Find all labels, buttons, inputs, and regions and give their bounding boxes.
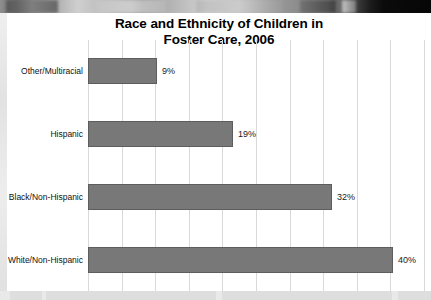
background-photo-strip <box>0 0 431 13</box>
bar[interactable] <box>88 58 157 84</box>
category-label: Hispanic <box>50 129 83 139</box>
photo-smear <box>6 0 58 13</box>
category-label: Other/Multiracial <box>21 66 83 76</box>
chart-title-line-1: Race and Ethnicity of Children in <box>115 16 323 31</box>
bar-value-label: 9% <box>162 66 175 76</box>
category-label: White/Non-Hispanic <box>8 255 83 265</box>
bar-value-label: 40% <box>398 255 416 265</box>
bar[interactable] <box>88 184 332 210</box>
category-label-slot: Other/Multiracial <box>7 58 83 84</box>
bottom-border-strip <box>0 291 431 300</box>
bottom-segment <box>10 291 42 300</box>
bar-row: 19% <box>88 121 424 147</box>
left-border-strip <box>0 13 7 300</box>
bar-row: 9% <box>88 58 424 84</box>
bar-row: 40% <box>88 247 424 273</box>
screenshot-root: Race and Ethnicity of Children in Foster… <box>0 0 431 300</box>
gridline <box>424 40 425 291</box>
bar-value-label: 32% <box>337 192 355 202</box>
bar[interactable] <box>88 121 233 147</box>
photo-smear <box>342 0 356 13</box>
bottom-segment <box>398 291 431 300</box>
bar-value-label: 19% <box>238 129 256 139</box>
category-label-slot: Hispanic <box>7 121 83 147</box>
bottom-segment <box>222 291 392 300</box>
bar-row: 32% <box>88 184 424 210</box>
category-label: Black/Non-Hispanic <box>9 192 83 202</box>
photo-smear <box>196 0 282 13</box>
category-label-slot: Black/Non-Hispanic <box>7 184 83 210</box>
photo-smear <box>300 0 336 13</box>
bar[interactable] <box>88 247 393 273</box>
photo-smear <box>96 0 166 13</box>
category-label-slot: White/Non-Hispanic <box>7 247 83 273</box>
chart-container: Race and Ethnicity of Children in Foster… <box>7 13 431 291</box>
bottom-segment <box>46 291 216 300</box>
plot-area: 9%19%32%40% <box>88 40 424 291</box>
